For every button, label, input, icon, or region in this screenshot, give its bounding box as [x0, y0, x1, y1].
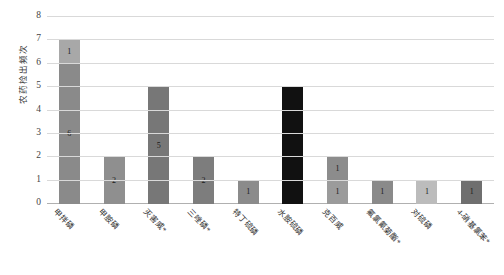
x-axis-label: 灭害威* [142, 206, 170, 235]
bar-value-label: 1 [380, 188, 384, 196]
bar-value-label: 1 [470, 188, 474, 196]
y-axis-tick: 4 [47, 110, 494, 111]
bar-value-label: 5 [157, 142, 161, 150]
bar-segment[interactable]: 6 [59, 64, 80, 204]
bar[interactable]: 11 [327, 157, 348, 204]
y-axis-tick: 3 [47, 133, 494, 134]
y-axis-tick-label: 6 [11, 57, 41, 67]
bar-value-label: 6 [67, 130, 71, 138]
y-axis-tick: 5 [47, 86, 494, 87]
bar-value-label: 1 [67, 48, 71, 56]
bar[interactable]: 2 [104, 157, 125, 204]
bar-value-label: 1 [246, 188, 250, 196]
bar-value-label: 2 [112, 177, 116, 185]
x-axis-label: 特丁硫磷 [231, 206, 262, 238]
bar-segment[interactable]: 1 [372, 181, 393, 204]
y-axis-tick-label: 2 [11, 150, 41, 160]
x-axis-label: 4-硝基氯苯* [455, 206, 494, 246]
x-axis-label: 对硫磷 [410, 206, 435, 232]
y-axis-tick-label: 1 [11, 174, 41, 184]
gridline [47, 63, 494, 64]
y-axis-tick-label: 7 [11, 33, 41, 43]
bar-segment[interactable]: 1 [416, 181, 437, 204]
gridline [47, 110, 494, 111]
x-axis-label: 甲胺磷 [97, 206, 122, 232]
bar-chart: 农药检出频次 162521511111 012345678 甲拌磷甲胺磷灭害威*… [0, 0, 504, 275]
bar-value-label: 1 [425, 188, 429, 196]
bar-segment[interactable]: 2 [193, 157, 214, 204]
x-axis-labels: 甲拌磷甲胺磷灭害威*三唑磷*特丁硫磷水胺硫磷克百威氟氯氰菊酯*对硫磷4-硝基氯苯… [47, 206, 494, 272]
x-axis-label: 克百威 [321, 206, 346, 232]
y-axis-tick-label: 4 [11, 104, 41, 114]
bar[interactable]: 1 [461, 181, 482, 204]
x-axis-label: 水胺硫磷 [276, 206, 307, 238]
gridline [47, 86, 494, 87]
bar[interactable]: 1 [372, 181, 393, 204]
bar[interactable]: 2 [193, 157, 214, 204]
gridline [47, 180, 494, 181]
y-axis-tick-label: 0 [11, 197, 41, 207]
bar[interactable]: 5 [148, 87, 169, 204]
x-axis-label: 甲拌磷 [52, 206, 77, 232]
y-axis-tick-label: 3 [11, 127, 41, 137]
x-axis-label: 氟氯氰菊酯* [365, 206, 404, 247]
y-axis-tick: 6 [47, 63, 494, 64]
bar[interactable]: 5 [282, 87, 303, 204]
bar-segment[interactable]: 1 [327, 157, 348, 180]
bar-segment[interactable]: 1 [238, 181, 259, 204]
bar-value-label: 1 [336, 165, 340, 173]
bar-segment[interactable]: 5 [282, 87, 303, 204]
y-axis-tick: 0 [47, 203, 494, 204]
gridline [47, 39, 494, 40]
y-axis-tick: 1 [47, 180, 494, 181]
gridline [47, 16, 494, 17]
gridline [47, 156, 494, 157]
bar-value-label: 1 [336, 188, 340, 196]
y-axis-tick: 7 [47, 39, 494, 40]
bar-segment[interactable]: 1 [327, 181, 348, 204]
bar[interactable]: 1 [238, 181, 259, 204]
bar-series: 162521511111 [47, 17, 494, 204]
bar[interactable]: 1 [416, 181, 437, 204]
bar-segment[interactable]: 1 [461, 181, 482, 204]
y-axis-tick-label: 8 [11, 10, 41, 20]
bar-segment[interactable]: 5 [148, 87, 169, 204]
gridline [47, 133, 494, 134]
plot-area: 162521511111 012345678 [47, 17, 494, 204]
y-axis-tick: 2 [47, 156, 494, 157]
bar-segment[interactable]: 2 [104, 157, 125, 204]
x-axis-label: 三唑磷* [186, 206, 214, 235]
y-axis-tick-label: 5 [11, 80, 41, 90]
bar-value-label: 2 [201, 177, 205, 185]
bar-segment[interactable]: 1 [59, 40, 80, 63]
y-axis-tick: 8 [47, 16, 494, 17]
